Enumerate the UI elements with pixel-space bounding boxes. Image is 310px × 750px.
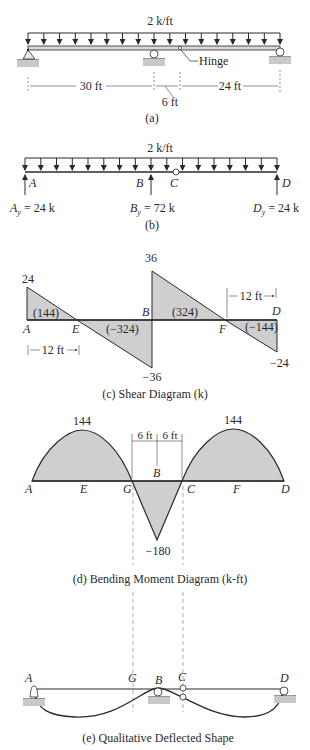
roller-support-icon xyxy=(269,48,291,64)
label-b: B xyxy=(153,466,161,480)
shear-value-d: −24 xyxy=(270,356,289,370)
label-f: F xyxy=(232,482,241,496)
label-d: D xyxy=(281,176,291,190)
reaction-b: By = 72 k xyxy=(130,201,175,217)
dimension-bc: 6 ft xyxy=(162,95,179,109)
dimension-lines xyxy=(28,70,280,97)
dimension-ae: 12 ft xyxy=(42,343,65,357)
caption-a: (a) xyxy=(145,111,158,125)
hinge-icon xyxy=(173,169,179,175)
label-b: B xyxy=(155,673,163,687)
shear-value-b-top: 36 xyxy=(145,251,157,265)
label-c: C xyxy=(178,670,187,684)
roller-support-icon xyxy=(143,50,165,66)
distributed-load-arrows xyxy=(25,158,277,170)
hinge-icon xyxy=(178,46,181,49)
label-b: B xyxy=(136,176,144,190)
dimension-fd: 12 ft xyxy=(240,289,263,303)
label-c: C xyxy=(187,482,196,496)
figure-d-moment-diagram: 144 144 −180 6 ft 6 ft A E G B C F D (d)… xyxy=(24,413,290,586)
dimension-bc: 6 ft xyxy=(163,429,178,441)
caption-d: (d) Bending Moment Diagram (k-ft) xyxy=(73,572,248,586)
label-a: A xyxy=(22,322,31,336)
hinge-icon xyxy=(180,685,186,691)
moment-peak-right: 144 xyxy=(224,413,242,427)
moment-min-b: −180 xyxy=(146,544,171,558)
label-e: E xyxy=(71,322,80,336)
caption-b: (b) xyxy=(145,218,159,232)
reaction-a: Ay = 24 k xyxy=(9,201,55,217)
label-d: D xyxy=(280,482,290,496)
figure-e-deflected-shape: A G B C D (e) Qualitative Deflected Shap… xyxy=(23,670,296,745)
distributed-load-arrows xyxy=(28,33,280,44)
load-label: 2 k/ft xyxy=(147,141,173,155)
figure-c-shear-diagram: 24 36 −36 −24 (144) (−324) (324) (−144) … xyxy=(22,251,289,401)
dimension-ab: 30 ft xyxy=(80,79,103,93)
reaction-arrows xyxy=(25,175,277,195)
moment-peak-left: 144 xyxy=(73,414,91,428)
pin-support-icon xyxy=(17,49,39,67)
label-c: C xyxy=(170,176,179,190)
deflected-curve-right xyxy=(182,690,283,717)
moment-region-ag xyxy=(32,430,132,481)
label-d: D xyxy=(279,671,289,685)
moment-region-gc xyxy=(132,481,182,540)
shear-value-b-bottom: −36 xyxy=(143,370,162,384)
label-e: E xyxy=(79,482,88,496)
beam xyxy=(28,46,280,50)
hinge-label: Hinge xyxy=(199,54,228,68)
load-label: 2 k/ft xyxy=(147,14,173,28)
beam-analysis-figure: 2 k/ft Hinge xyxy=(0,0,310,750)
moment-region-cd xyxy=(182,429,284,481)
area-fd: (−144) xyxy=(245,320,278,334)
dimension-gb: 6 ft xyxy=(138,429,153,441)
shear-value-a: 24 xyxy=(22,272,34,286)
figure-b-free-body: 2 k/ft A B xyxy=(9,141,299,232)
label-a: A xyxy=(24,671,33,685)
label-f: F xyxy=(218,322,227,336)
area-ae: (144) xyxy=(33,306,59,320)
label-b: B xyxy=(142,305,150,319)
area-eb: (−324) xyxy=(106,322,139,336)
hinge-icon xyxy=(180,694,186,700)
caption-e: (e) Qualitative Deflected Shape xyxy=(82,731,234,745)
label-d: D xyxy=(271,304,281,318)
label-a: A xyxy=(28,176,37,190)
area-bf: (324) xyxy=(172,305,198,319)
reaction-d: Dy = 24 k xyxy=(252,201,299,217)
label-g: G xyxy=(128,671,137,685)
label-g: G xyxy=(123,482,132,496)
label-a: A xyxy=(24,482,33,496)
dimension-cd: 24 ft xyxy=(219,79,242,93)
caption-c: (c) Shear Diagram (k) xyxy=(102,387,208,401)
figure-a-beam: 2 k/ft Hinge xyxy=(17,14,291,125)
